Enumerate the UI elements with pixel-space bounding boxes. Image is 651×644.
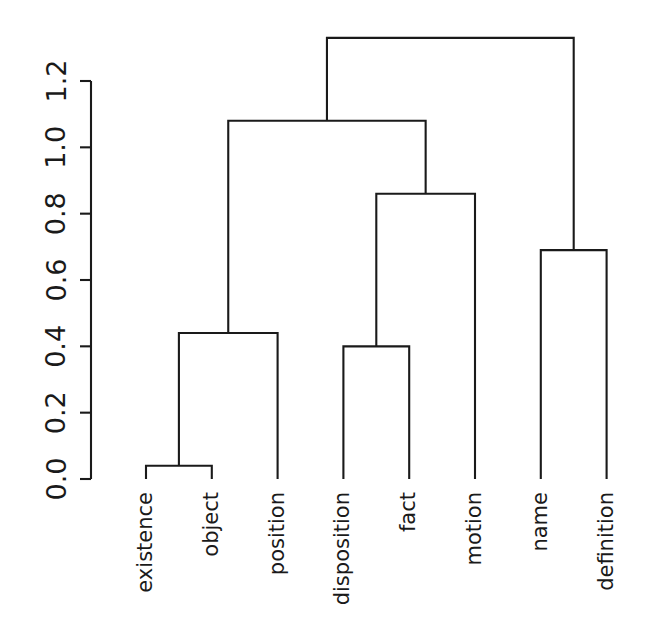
dendrogram-link <box>228 121 425 333</box>
leaf-label-existence: existence <box>133 492 157 593</box>
leaf-label-name: name <box>528 492 552 552</box>
leaf-label-disposition: disposition <box>330 492 354 605</box>
leaf-labels: existenceobjectpositiondispositionfactmo… <box>133 492 618 605</box>
y-axis <box>80 81 91 479</box>
dendrogram-link <box>179 333 278 479</box>
leaf-label-position: position <box>265 492 289 575</box>
y-axis-tick-label: 0.0 <box>41 458 72 501</box>
y-axis-tick-labels: 0.00.20.40.60.81.01.2 <box>41 60 72 501</box>
leaf-label-motion: motion <box>462 492 486 566</box>
dendrogram-link <box>146 466 212 479</box>
y-axis-tick-label: 0.4 <box>41 325 72 368</box>
leaf-label-definition: definition <box>594 492 618 591</box>
dendrogram-link <box>541 250 607 479</box>
y-axis-tick-label: 1.0 <box>41 126 72 169</box>
y-axis-tick-label: 0.8 <box>41 192 72 235</box>
dendrogram-plot: 0.00.20.40.60.81.01.2 existenceobjectpos… <box>0 0 651 644</box>
leaf-label-object: object <box>199 492 223 557</box>
dendrogram-figure: 0.00.20.40.60.81.01.2 existenceobjectpos… <box>0 0 651 644</box>
dendrogram-link <box>376 194 475 479</box>
leaf-label-fact: fact <box>396 492 420 532</box>
y-axis-tick-label: 0.2 <box>41 391 72 434</box>
y-axis-tick-label: 1.2 <box>41 60 72 103</box>
y-axis-tick-label: 0.6 <box>41 259 72 302</box>
dendrogram-tree <box>146 38 607 479</box>
dendrogram-link <box>343 346 409 479</box>
dendrogram-link <box>327 38 574 250</box>
